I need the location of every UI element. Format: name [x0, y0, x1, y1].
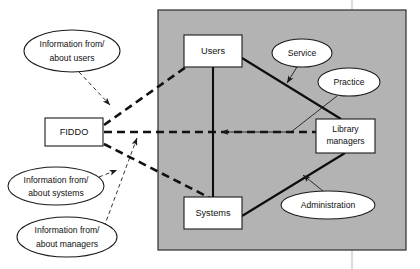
node-library-managers-label-line2: managers: [326, 136, 364, 146]
node-service[interactable]: Service: [272, 39, 332, 67]
node-practice-label: Practice: [333, 77, 364, 87]
node-administration-label: Administration: [301, 200, 356, 210]
node-service-label: Service: [288, 48, 317, 58]
node-practice[interactable]: Practice: [318, 68, 380, 96]
node-information-from-about-users-label-line1: Information from/: [40, 39, 106, 49]
node-information-from-about-systems-shape: [8, 167, 104, 205]
node-fiddo-label: FIDDO: [60, 127, 89, 137]
node-information-from-about-users-label-line2: about users: [50, 53, 95, 63]
node-systems-label: Systems: [195, 208, 231, 218]
node-users[interactable]: Users: [184, 35, 242, 67]
node-information-from-about-managers[interactable]: Information from/ about managers: [17, 217, 117, 257]
node-library-managers-label-line1: Library: [332, 124, 359, 134]
connector-systems-ellipse-to-link: [99, 170, 117, 177]
node-information-from-about-users-shape: [24, 30, 120, 72]
node-users-label: Users: [201, 46, 225, 56]
node-library-managers[interactable]: Library managers: [316, 119, 375, 153]
connector-users-ellipse-to-link: [79, 72, 110, 105]
node-information-from-about-systems-label-line2: about systems: [28, 188, 83, 198]
node-information-from-about-systems[interactable]: Information from/ about systems: [8, 167, 104, 205]
node-administration[interactable]: Administration: [281, 191, 375, 219]
node-information-from-about-managers-label-line2: about managers: [36, 239, 98, 249]
diagram-canvas: FIDDO Users Systems Library managers Inf…: [0, 0, 420, 269]
node-information-from-about-managers-shape: [17, 217, 117, 257]
node-systems[interactable]: Systems: [184, 197, 242, 229]
node-information-from-about-users[interactable]: Information from/ about users: [24, 30, 120, 72]
node-information-from-about-systems-label-line1: Information from/: [24, 175, 90, 185]
diagram-svg: FIDDO Users Systems Library managers Inf…: [0, 0, 420, 269]
node-fiddo[interactable]: FIDDO: [45, 118, 103, 146]
node-information-from-about-managers-label-line1: Information from/: [35, 225, 101, 235]
